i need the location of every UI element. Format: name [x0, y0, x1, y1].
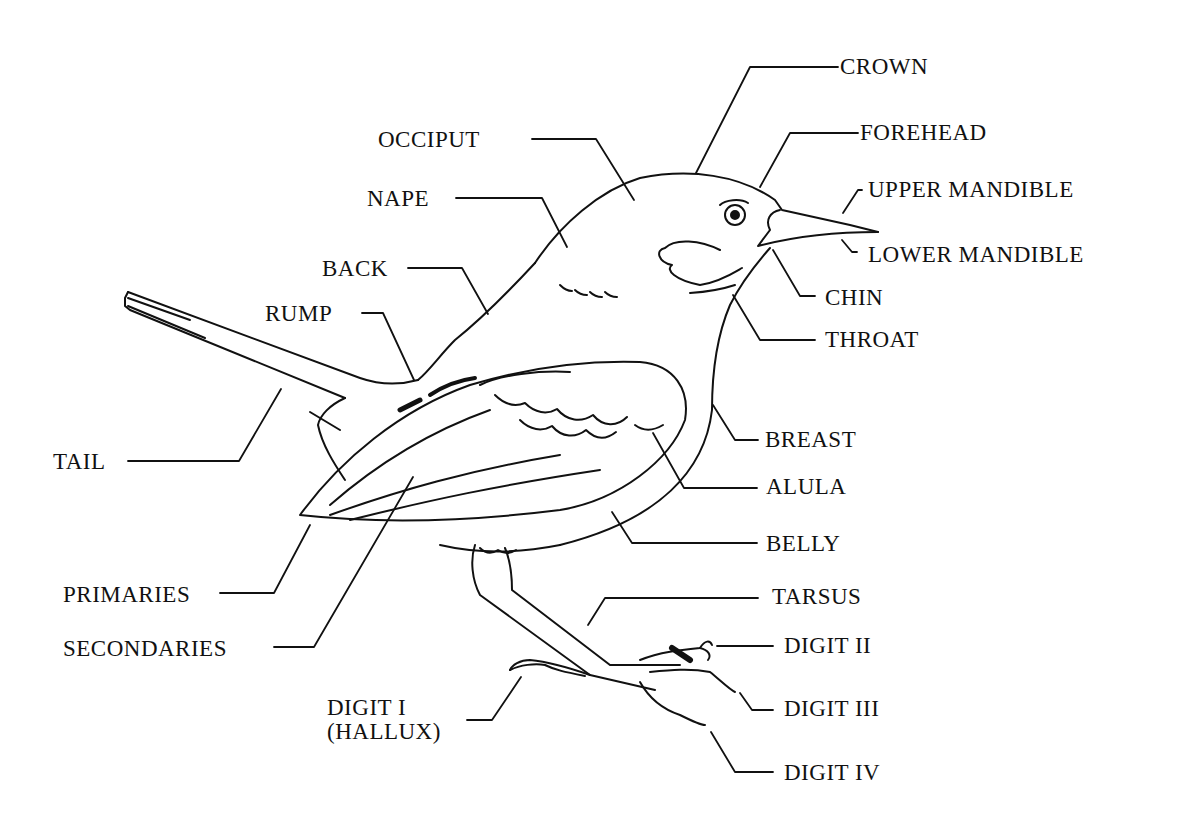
leader-nape — [456, 198, 567, 247]
label-crown: CROWN — [840, 55, 928, 79]
label-secondaries: SECONDARIES — [63, 637, 227, 661]
label-digit-i-line2: (HALLUX) — [327, 720, 441, 744]
label-lower-mandible: LOWER MANDIBLE — [868, 243, 1084, 267]
leader-digit-i — [467, 677, 521, 720]
leader-back — [408, 268, 488, 314]
leader-tarsus — [588, 598, 758, 625]
label-digit-ii: DIGIT II — [784, 634, 871, 658]
leader-breast — [713, 405, 758, 440]
label-throat: THROAT — [825, 328, 919, 352]
label-forehead: FOREHEAD — [860, 121, 987, 145]
leader-forehead — [760, 133, 858, 187]
leader-tail — [128, 389, 281, 461]
label-alula: ALULA — [766, 475, 846, 499]
label-rump: RUMP — [265, 302, 332, 326]
leader-secondaries — [274, 477, 413, 647]
bird-anatomy-diagram: CROWN FOREHEAD UPPER MANDIBLE LOWER MAND… — [0, 0, 1188, 826]
leader-digit-iv — [711, 732, 773, 772]
leader-lower-mandible — [842, 240, 857, 252]
label-tarsus: TARSUS — [772, 585, 861, 609]
leader-occiput — [532, 139, 634, 200]
label-back: BACK — [322, 257, 388, 281]
bird-illustration — [0, 0, 1188, 826]
label-tail: TAIL — [53, 450, 106, 474]
label-occiput: OCCIPUT — [378, 128, 480, 152]
label-breast: BREAST — [765, 428, 856, 452]
label-digit-iii: DIGIT III — [784, 697, 879, 721]
label-chin: CHIN — [825, 286, 883, 310]
label-upper-mandible: UPPER MANDIBLE — [868, 178, 1074, 202]
label-digit-iv: DIGIT IV — [784, 761, 880, 785]
label-belly: BELLY — [766, 532, 840, 556]
leader-chin — [773, 250, 815, 296]
leader-lines — [128, 67, 862, 772]
leader-upper-mandible — [843, 190, 862, 213]
leader-rump — [362, 313, 414, 380]
label-digit-i-line1: DIGIT I — [327, 696, 441, 720]
leader-digit-iii — [740, 693, 773, 710]
leader-crown — [696, 67, 838, 173]
label-primaries: PRIMARIES — [63, 583, 190, 607]
label-nape: NAPE — [367, 187, 429, 211]
label-digit-i: DIGIT I (HALLUX) — [327, 696, 441, 744]
leader-throat — [733, 295, 815, 340]
leader-primaries — [220, 525, 310, 593]
